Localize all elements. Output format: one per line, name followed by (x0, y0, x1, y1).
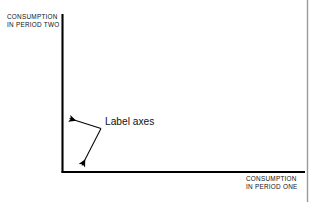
axes-diagram-svg (0, 0, 319, 202)
x-axis-caption-line-1: CONSUMPTION (246, 175, 298, 183)
x-axis-caption: CONSUMPTION IN PERIOD ONE (246, 175, 298, 191)
annotation-arrow-to-y-axis (70, 119, 102, 129)
y-axis-caption-line-1: CONSUMPTION (7, 13, 59, 21)
y-axis-caption-line-2: IN PERIOD TWO (7, 21, 59, 29)
label-axes-annotation: Label axes (105, 116, 154, 128)
y-axis-caption: CONSUMPTION IN PERIOD TWO (7, 13, 59, 29)
x-axis-caption-line-2: IN PERIOD ONE (246, 183, 298, 191)
annotation-arrow-to-x-axis (82, 129, 101, 166)
figure-canvas: CONSUMPTION IN PERIOD TWO CONSUMPTION IN… (0, 0, 319, 202)
